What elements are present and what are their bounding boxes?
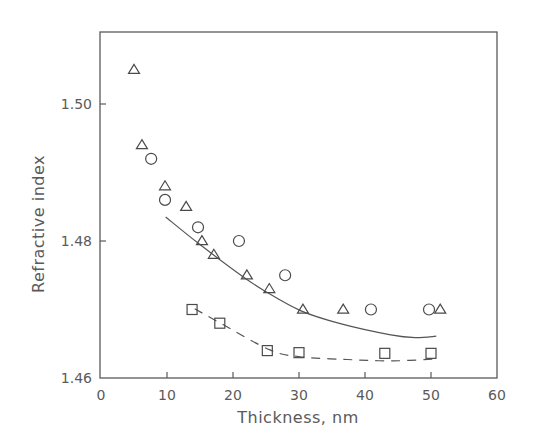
plot-frame [100, 32, 497, 378]
circle-marker [280, 270, 291, 281]
square-marker [426, 348, 436, 358]
y-axis-ticks: 1.461.481.50 [61, 96, 106, 386]
triangle-marker [129, 64, 140, 73]
triangle-marker [136, 140, 147, 149]
triangle-marker [208, 249, 219, 258]
square-marker [215, 318, 225, 328]
refractive-index-chart: 0102030405060 1.461.481.50 Thickness, nm… [0, 0, 536, 437]
circle-marker [160, 194, 171, 205]
triangle-marker [241, 270, 252, 279]
x-axis-title: Thickness, nm [236, 408, 358, 427]
circle-marker [146, 153, 157, 164]
triangle-marker [181, 201, 192, 210]
y-tick-label: 1.46 [61, 370, 92, 386]
x-tick-label: 0 [97, 387, 106, 403]
x-tick-label: 10 [158, 387, 176, 403]
y-axis-title: Refractive index [29, 155, 48, 293]
fit-curves [166, 217, 439, 361]
triangle-marker [435, 304, 446, 313]
circle-marker [233, 236, 244, 247]
x-axis-ticks: 0102030405060 [97, 372, 506, 403]
x-tick-label: 20 [224, 387, 242, 403]
x-tick-label: 50 [422, 387, 440, 403]
y-tick-label: 1.50 [61, 96, 92, 112]
x-tick-label: 30 [290, 387, 308, 403]
y-tick-label: 1.48 [61, 233, 92, 249]
circle-marker [193, 222, 204, 233]
triangle-marker [338, 304, 349, 313]
square-marker [380, 348, 390, 358]
solid-fit-curve [166, 217, 437, 338]
data-markers [129, 64, 446, 358]
circle-marker [365, 304, 376, 315]
circle-marker [424, 304, 435, 315]
x-tick-label: 40 [356, 387, 374, 403]
triangle-marker [160, 181, 171, 190]
x-tick-label: 60 [488, 387, 506, 403]
